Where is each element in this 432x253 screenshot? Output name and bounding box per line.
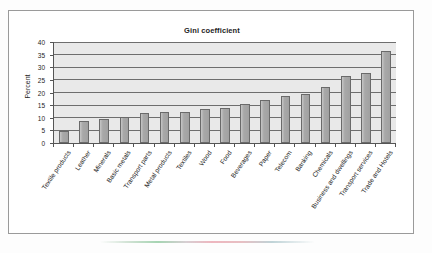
x-axis-tick-mark [234,144,235,147]
bar [260,100,270,143]
y-axis-tick-label: 35 [23,51,45,58]
x-axis-tick-mark [113,144,114,147]
x-axis-tick-mark [154,144,155,147]
bar [79,121,89,143]
bar [180,112,190,143]
figure-frame: Gini coefficient Percent Textile product… [8,10,414,234]
plot-inner [54,42,396,143]
x-axis-category-label: Wood [197,149,212,167]
bar [381,51,391,143]
x-axis-tick-mark [315,144,316,147]
x-axis-tick-mark [254,144,255,147]
y-axis-tick-mark [50,130,53,131]
y-axis-tick-label: 30 [23,64,45,71]
x-axis-tick-mark [73,144,74,147]
y-axis-tick-mark [50,105,53,106]
x-axis-tick-mark [93,144,94,147]
x-axis-tick-mark [53,144,54,147]
x-axis-tick-mark [194,144,195,147]
y-axis-tick-mark [50,80,53,81]
x-axis-category-label: Food [219,149,233,165]
x-axis-category-label: Leather [74,149,92,171]
bar [140,113,150,143]
bar [321,87,331,143]
bar [361,73,371,143]
bar [200,109,210,143]
y-axis-tick-mark [50,93,53,94]
bar [240,104,250,143]
y-axis-tick-mark [50,55,53,56]
y-axis-tick-label: 25 [23,76,45,83]
y-axis-tick-label: 40 [23,39,45,46]
bar [99,119,109,143]
bar [281,96,291,143]
x-axis-tick-mark [214,144,215,147]
x-axis-tick-mark [395,144,396,147]
x-axis-category-label: Textile products [40,149,71,191]
bar [120,117,130,143]
bar [341,76,351,143]
x-axis-tick-mark [133,144,134,147]
bar [220,108,230,143]
x-axis-tick-mark [375,144,376,147]
y-axis-tick-mark [50,42,53,43]
y-axis-tick-mark [50,67,53,68]
y-axis-tick-label: 5 [23,127,45,134]
y-axis-tick-label: 20 [23,89,45,96]
y-axis-tick-label: 10 [23,114,45,121]
y-axis-tick-label: 15 [23,102,45,109]
gridline [54,54,396,55]
gridline [54,67,396,68]
scanned-page: Gini coefficient Percent Textile product… [0,0,432,253]
x-axis-tick-mark [174,144,175,147]
x-axis-category-label: Banking [294,149,313,173]
scan-color-fringe [100,241,315,243]
bar [59,131,69,143]
chart-title: Gini coefficient [9,26,415,35]
x-axis-category-label: Telecom [274,149,294,173]
x-axis-tick-mark [274,144,275,147]
x-axis-category-label: Minerals [92,149,112,174]
x-axis-category-label: Textiles [174,149,192,171]
y-axis-tick-mark [50,118,53,119]
gridline [54,42,396,43]
x-axis-category-label: Beverages [229,149,252,179]
bar [301,94,311,143]
x-axis-labels: Textile productsLeatherMineralsBasic met… [53,147,395,247]
x-axis-category-label: Paper [257,149,273,168]
bar [160,112,170,143]
x-axis-tick-mark [355,144,356,147]
x-axis-tick-mark [335,144,336,147]
y-axis-tick-label: 0 [23,140,45,147]
plot-area [53,42,396,144]
x-axis-tick-mark [294,144,295,147]
